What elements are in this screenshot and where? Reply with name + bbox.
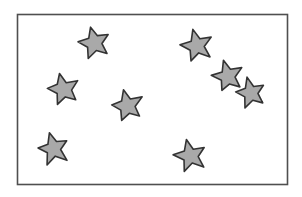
illustration-canvas	[0, 0, 302, 197]
star-flag-illustration	[0, 0, 302, 197]
